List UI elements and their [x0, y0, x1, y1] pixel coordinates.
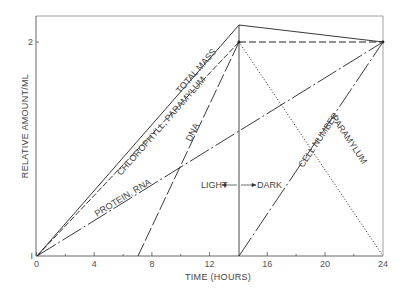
x-tick-0: 0 [34, 259, 39, 269]
x-tick-12: 12 [205, 259, 215, 269]
label-dark: DARK [257, 180, 282, 190]
x-tick-8: 8 [149, 259, 154, 269]
series-protein-rna [37, 42, 383, 256]
x-tick-20: 20 [320, 259, 330, 269]
light-arrow-icon [222, 184, 237, 187]
label-protein-rna: PROTEIN, RNA [93, 177, 153, 219]
x-tick-16: 16 [262, 259, 272, 269]
y-tick-1: I [30, 251, 33, 261]
end-dot [382, 41, 385, 44]
x-tick-24: 24 [378, 259, 388, 269]
dark-arrow-icon [241, 184, 256, 187]
y-axis-label: RELATIVE AMOUNT/ML [20, 74, 30, 178]
y-tick-2: 2 [28, 37, 33, 47]
label-paramylum: PARAMYLUM [329, 114, 369, 166]
peak-dot [237, 40, 240, 43]
x-axis-label: TIME (HOURS) [185, 272, 251, 282]
label-dna: DNA [184, 121, 201, 142]
chart: 0 4 8 12 16 20 24 I 2 TIME (HOURS) RELAT… [0, 0, 414, 288]
x-tick-4: 4 [92, 259, 97, 269]
